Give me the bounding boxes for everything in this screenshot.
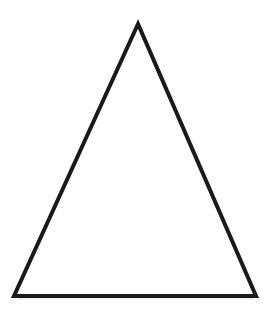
drawing-canvas [0, 0, 272, 321]
triangle-figure [0, 0, 272, 321]
